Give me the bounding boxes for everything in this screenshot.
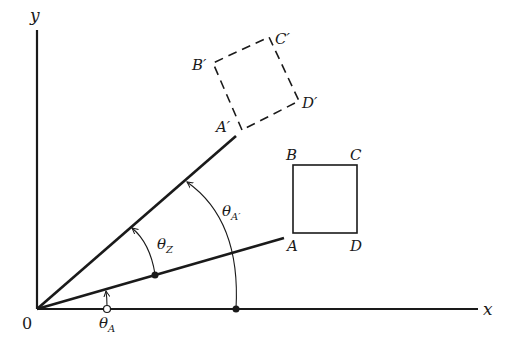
x-axis-label: x (483, 299, 493, 319)
rotation-diagram: y x 0 B C A D B′ C′ D′ A′ θA θZ θA′ (0, 0, 511, 357)
ray-to-A-prime (37, 136, 236, 309)
theta-A-label: θA (99, 314, 115, 334)
corner-label-A-prime: A′ (214, 118, 231, 136)
origin-label: 0 (22, 314, 32, 333)
corner-label-B: B (285, 146, 297, 164)
theta-A-prime-point (233, 306, 240, 313)
theta-Z-label: θZ (157, 235, 174, 255)
corner-label-B-prime: B′ (191, 56, 207, 74)
corner-label-D-prime: D′ (301, 94, 318, 112)
theta-Z-point (152, 272, 159, 279)
corner-label-A: A (285, 237, 298, 255)
corner-label-C-prime: C′ (275, 30, 290, 48)
theta-A-point (104, 306, 111, 313)
square-ABCD (293, 165, 357, 233)
axes (37, 30, 478, 309)
y-axis-label: y (29, 5, 40, 25)
theta-A-prime-label: θA′ (222, 202, 241, 222)
corner-label-C: C (350, 146, 362, 164)
theta-Z-arc (132, 228, 155, 274)
theta-A-arc (106, 291, 107, 306)
square-A-prime-B-prime-C-prime-D-prime (213, 37, 299, 130)
corner-label-D: D (349, 237, 362, 255)
